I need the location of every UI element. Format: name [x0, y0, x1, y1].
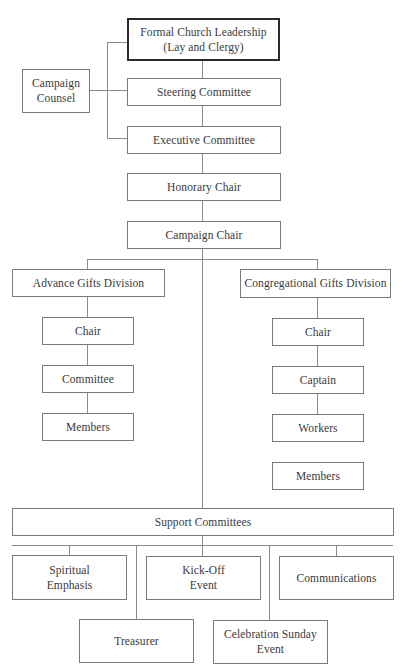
node-communications: Communications — [279, 556, 394, 600]
connector-line — [107, 42, 128, 43]
node-advance-chair: Chair — [42, 317, 134, 345]
node-support-committees: Support Committees — [12, 508, 394, 536]
node-label: Treasurer — [114, 634, 159, 649]
node-label: Executive Committee — [153, 133, 255, 148]
node-label: Members — [296, 469, 340, 484]
node-label: Campaign — [32, 76, 80, 91]
node-label: (Lay and Clergy) — [140, 40, 266, 55]
node-label: Workers — [298, 421, 337, 436]
node-label: Event — [182, 578, 225, 593]
node-celebration-sunday-event: Celebration SundayEvent — [213, 620, 328, 664]
node-label: Members — [66, 420, 110, 435]
node-label: Honorary Chair — [167, 180, 241, 195]
node-label: Emphasis — [47, 578, 93, 593]
connector-line — [90, 90, 127, 91]
node-label: Chair — [75, 324, 101, 339]
node-steering-committee: Steering Committee — [127, 78, 281, 106]
node-campaign-chair: Campaign Chair — [127, 221, 281, 249]
node-label: Counsel — [32, 91, 80, 106]
connector-line — [87, 259, 88, 269]
node-label: Event — [224, 642, 317, 657]
node-label: Campaign Chair — [165, 228, 242, 243]
node-label: Captain — [300, 373, 336, 388]
connector-line — [317, 297, 318, 414]
node-label: Advance Gifts Division — [33, 276, 144, 291]
node-treasurer: Treasurer — [79, 619, 194, 663]
node-spiritual-emphasis: SpiritualEmphasis — [12, 555, 127, 600]
node-honorary-chair: Honorary Chair — [127, 173, 281, 201]
node-label: Kick-Off — [182, 563, 225, 578]
node-executive-committee: Executive Committee — [127, 126, 281, 154]
connector-line — [107, 138, 127, 139]
node-campaign-counsel: CampaignCounsel — [22, 69, 90, 113]
node-formal-church-leadership: Formal Church Leadership(Lay and Clergy) — [127, 18, 280, 61]
node-label: Celebration Sunday — [224, 627, 317, 642]
node-advance-committee: Committee — [42, 365, 134, 393]
node-advance-gifts-division: Advance Gifts Division — [12, 269, 165, 297]
node-label: Communications — [297, 571, 377, 586]
node-label: Committee — [62, 372, 114, 387]
connector-line — [269, 545, 270, 620]
connector-line — [336, 545, 337, 556]
node-label: Congregational Gifts Division — [244, 276, 386, 291]
node-label: Chair — [305, 325, 331, 340]
node-captain: Captain — [272, 366, 364, 394]
node-label: Spiritual — [47, 563, 93, 578]
node-congregational-chair: Chair — [272, 318, 364, 346]
connector-line — [317, 259, 318, 269]
node-congregational-gifts-division: Congregational Gifts Division — [240, 269, 391, 298]
node-workers: Workers — [272, 414, 364, 442]
connector-line — [136, 545, 137, 619]
connector-line — [69, 545, 70, 555]
node-label: Formal Church Leadership — [140, 25, 266, 40]
node-label: Support Committees — [155, 515, 252, 530]
node-label: Steering Committee — [157, 85, 251, 100]
node-advance-members: Members — [42, 413, 134, 441]
node-congregational-members: Members — [272, 462, 364, 490]
node-kick-off-event: Kick-OffEvent — [146, 556, 261, 600]
connector-line — [87, 259, 318, 260]
connector-line — [87, 296, 88, 413]
